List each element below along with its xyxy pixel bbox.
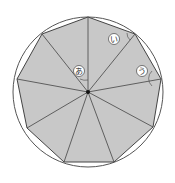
svg-text:あ: あ [75, 67, 83, 76]
nonagon-diagram: あ い う [0, 0, 175, 183]
svg-text:う: う [138, 67, 146, 76]
label-u: う [137, 66, 148, 77]
svg-text:い: い [110, 35, 118, 44]
nonagon [17, 17, 161, 162]
label-i: い [109, 34, 120, 45]
center-point [86, 90, 90, 94]
label-a: あ [74, 66, 85, 77]
